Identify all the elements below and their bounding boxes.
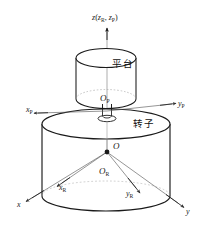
rotor-origin-label: OR xyxy=(99,167,109,176)
coordinate-frame-figure: z(zR, zP) 平台 OP xP yP 转子 O OR xR yR x y xyxy=(0,0,205,232)
yr-axis-subscript: R xyxy=(130,193,134,199)
platform-origin-symbol: O xyxy=(100,93,107,103)
yp-axis-subscript: P xyxy=(182,103,185,109)
xp-axis-label: xP xyxy=(26,106,33,114)
xr-axis-subscript: R xyxy=(63,187,67,193)
y-axis-label: y xyxy=(186,208,190,216)
xp-axis-subscript: P xyxy=(30,109,33,115)
z-axis-paren-close: ) xyxy=(115,13,118,22)
platform-origin-label: OP xyxy=(100,94,110,103)
z-axis-rotor-subscript: R xyxy=(101,17,105,23)
figure-drawing xyxy=(0,0,205,232)
global-origin-label: O xyxy=(113,142,120,151)
xr-axis-label: xR xyxy=(59,184,66,192)
rotor-body-label: 转子 xyxy=(133,119,154,129)
rotor-origin-symbol: O xyxy=(99,166,106,176)
yp-axis-label: yP xyxy=(178,100,185,108)
rotor-origin-subscript: R xyxy=(106,171,110,177)
yr-axis-label: yR xyxy=(126,190,133,198)
platform-body-label: 平台 xyxy=(112,59,133,69)
origin-marker-dot xyxy=(105,150,110,155)
global-frame-axes xyxy=(26,152,184,208)
x-axis-label: x xyxy=(17,201,21,209)
z-axis-platform-subscript: P xyxy=(112,17,115,23)
platform-origin-subscript: P xyxy=(107,98,110,104)
z-axis-label: z(zR, zP) xyxy=(92,14,118,22)
